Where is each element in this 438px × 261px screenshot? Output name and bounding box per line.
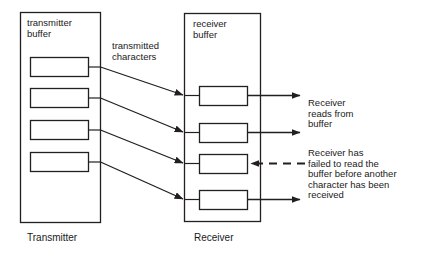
receiver-slot-2 (200, 124, 248, 143)
transmitter-buffer-label: transmitter buffer (27, 18, 72, 39)
transmitter-caption: Transmitter (27, 232, 77, 243)
transmitter-slot-2 (31, 89, 89, 108)
receiver-caption: Receiver (194, 232, 233, 243)
diagram-canvas: transmitter buffer receiver buffer trans… (0, 0, 438, 261)
transmitted-arrow-3 (101, 130, 184, 163)
transmitted-arrow-4 (101, 162, 184, 199)
receiver-slot-4 (200, 191, 248, 210)
transmitter-slot-3 (31, 121, 89, 140)
transmitter-outer-box (21, 13, 101, 223)
receiver-buffer-label: receiver buffer (193, 19, 227, 40)
receiver-failed-label: Receiver has failed to read the buffer b… (308, 148, 397, 201)
transmitted-arrow-2 (101, 98, 184, 132)
receiver-slot-3 (200, 155, 248, 174)
transmitted-arrow-1 (101, 67, 184, 95)
receiver-slot-1 (200, 87, 248, 106)
transmitter-slot-1 (31, 58, 89, 77)
transmitted-characters-label: transmitted characters (112, 41, 159, 62)
receiver-reads-label: Receiver reads from buffer (308, 98, 353, 130)
transmitter-slot-4 (31, 153, 89, 172)
